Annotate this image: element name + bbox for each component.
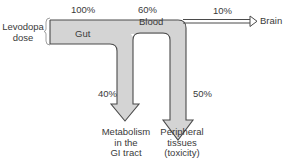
- dose-brace-icon: [44, 18, 50, 45]
- peripheral-percent: 50%: [193, 88, 212, 99]
- metabolism-line-1: Metabolism: [102, 127, 151, 138]
- brain-percent: 10%: [213, 5, 232, 16]
- levodopa-dose-label: Levodopa dose: [2, 21, 44, 43]
- peripheral-line-3: (toxicity): [160, 148, 203, 159]
- brain-arrow: [183, 16, 257, 27]
- blood-label: Blood: [139, 16, 163, 27]
- levodopa-dose-line-1: Levodopa: [2, 21, 44, 32]
- metabolism-line-3: GI tract: [102, 148, 151, 159]
- gi-metabolism-percent: 40%: [98, 88, 117, 99]
- metabolism-label: Metabolism in the GI tract: [102, 127, 151, 159]
- gi-metabolism-arrow: [50, 20, 139, 121]
- dose-percent: 100%: [71, 4, 95, 15]
- blood-percent: 60%: [138, 4, 157, 15]
- peripheral-line-1: Peripheral: [160, 127, 203, 138]
- peripheral-label: Peripheral tissues (toxicity): [160, 127, 203, 159]
- levodopa-dose-line-2: dose: [2, 32, 44, 43]
- gut-label: Gut: [75, 28, 90, 39]
- brain-label: Brain: [260, 15, 282, 26]
